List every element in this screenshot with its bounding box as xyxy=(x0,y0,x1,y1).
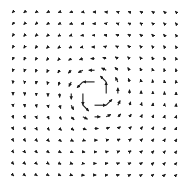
field-arrow xyxy=(77,82,83,88)
field-arrow xyxy=(164,139,165,140)
field-arrow xyxy=(103,57,106,58)
field-arrow xyxy=(48,105,49,108)
field-arrow xyxy=(128,46,130,47)
field-arrow xyxy=(141,127,142,129)
field-arrow xyxy=(47,24,48,25)
field-arrow xyxy=(83,140,86,141)
field-arrow xyxy=(175,11,176,12)
field-arrow xyxy=(130,114,132,117)
field-arrow xyxy=(25,117,26,119)
field-arrow xyxy=(164,46,165,47)
field-arrow xyxy=(25,175,26,176)
field-arrow xyxy=(47,82,48,85)
field-arrow xyxy=(60,117,62,120)
field-arrow xyxy=(128,57,130,59)
field-arrow xyxy=(71,105,73,110)
field-arrow xyxy=(164,34,165,35)
field-arrow xyxy=(152,34,153,35)
field-arrow xyxy=(153,174,154,175)
field-arrow xyxy=(152,46,153,47)
field-arrow xyxy=(36,175,37,176)
field-arrow xyxy=(153,115,154,117)
field-arrow xyxy=(78,70,83,72)
field-arrow xyxy=(36,70,37,72)
field-arrow xyxy=(116,35,118,36)
field-arrow xyxy=(115,67,118,70)
field-arrow xyxy=(175,46,176,47)
field-arrow xyxy=(58,12,59,13)
field-arrow xyxy=(130,139,132,140)
field-arrow xyxy=(83,129,86,130)
arrow-layer xyxy=(12,11,177,176)
field-arrow xyxy=(47,35,48,36)
field-arrow xyxy=(140,34,141,35)
field-arrow xyxy=(106,127,109,128)
field-arrow xyxy=(60,175,61,176)
field-arrow xyxy=(116,77,118,82)
field-arrow xyxy=(36,129,37,131)
field-arrow xyxy=(118,163,120,164)
field-arrow xyxy=(130,175,131,176)
field-arrow xyxy=(12,12,13,13)
field-arrow xyxy=(69,82,71,87)
field-arrow xyxy=(24,12,25,13)
field-arrow xyxy=(164,162,165,163)
field-arrow xyxy=(69,47,71,48)
field-arrow xyxy=(140,46,141,47)
field-arrow xyxy=(47,59,48,61)
field-arrow xyxy=(164,151,165,152)
field-arrow xyxy=(130,127,132,129)
field-arrow xyxy=(58,59,60,61)
field-arrow xyxy=(83,105,89,111)
field-arrow xyxy=(152,68,153,70)
field-arrow xyxy=(130,163,132,164)
field-arrow xyxy=(140,11,141,12)
field-arrow xyxy=(163,11,164,12)
field-arrow xyxy=(118,139,120,140)
field-arrow xyxy=(60,140,62,141)
field-arrow xyxy=(100,76,106,82)
field-arrow xyxy=(25,152,26,153)
field-arrow xyxy=(48,117,49,119)
field-arrow xyxy=(115,57,118,59)
field-arrow xyxy=(118,127,121,129)
field-arrow xyxy=(152,23,153,24)
field-arrow xyxy=(141,151,142,152)
field-arrow xyxy=(140,68,141,70)
field-arrow xyxy=(35,35,36,36)
field-arrow xyxy=(24,59,25,61)
field-arrow xyxy=(69,35,71,36)
field-arrow xyxy=(13,129,14,130)
field-arrow xyxy=(35,24,36,25)
field-arrow xyxy=(118,114,121,117)
field-arrow xyxy=(48,129,49,131)
field-arrow xyxy=(128,78,129,81)
field-arrow xyxy=(116,23,118,24)
field-arrow xyxy=(25,140,26,141)
field-arrow xyxy=(71,152,73,153)
field-arrow xyxy=(153,151,154,152)
field-arrow xyxy=(176,174,177,175)
field-arrow xyxy=(71,117,74,120)
field-arrow xyxy=(141,163,142,164)
field-arrow xyxy=(71,163,73,164)
field-arrow xyxy=(69,59,72,61)
field-arrow xyxy=(36,152,37,153)
field-arrow xyxy=(164,174,165,175)
field-arrow xyxy=(175,23,176,24)
field-arrow xyxy=(60,152,62,153)
field-arrow xyxy=(141,139,142,140)
field-arrow xyxy=(164,115,165,117)
field-arrow xyxy=(48,140,49,141)
field-arrow xyxy=(118,101,120,106)
field-arrow xyxy=(141,174,142,175)
field-arrow xyxy=(35,12,36,13)
field-arrow xyxy=(58,70,60,73)
field-arrow xyxy=(102,68,107,70)
field-arrow xyxy=(152,57,153,59)
field-arrow xyxy=(12,47,13,48)
field-arrow xyxy=(36,163,37,164)
field-arrow xyxy=(58,47,60,48)
field-arrow xyxy=(58,82,59,85)
field-arrow xyxy=(68,70,71,73)
